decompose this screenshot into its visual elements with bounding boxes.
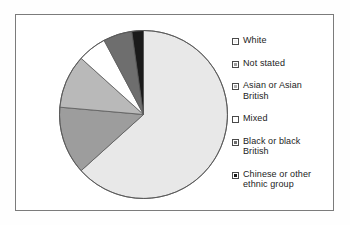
legend-item-black-or-black-british[interactable]: Black or black British xyxy=(232,136,332,157)
chart-frame: White Not stated Asian or Asian British … xyxy=(15,14,334,211)
legend-swatch-icon xyxy=(232,38,239,45)
legend-label: White xyxy=(243,35,267,46)
legend-swatch-fill xyxy=(233,140,238,145)
legend-swatch-icon xyxy=(232,116,239,123)
pie-svg xyxy=(59,30,228,199)
legend-label: Not stated xyxy=(243,58,285,69)
legend-label: Black or black British xyxy=(243,136,300,157)
legend-item-white[interactable]: White xyxy=(232,35,332,46)
legend-swatch-fill xyxy=(233,62,238,67)
legend-item-asian-or-asian-british[interactable]: Asian or Asian British xyxy=(232,80,332,101)
pie-chart xyxy=(59,30,228,199)
legend-swatch-icon xyxy=(232,139,239,146)
pie-slice-group xyxy=(60,31,228,199)
legend-swatch-icon xyxy=(232,83,239,90)
chart-area: White Not stated Asian or Asian British … xyxy=(16,15,335,212)
legend-swatch-icon xyxy=(232,172,239,179)
legend-swatch-fill xyxy=(233,117,238,122)
legend-swatch-icon xyxy=(232,61,239,68)
legend-swatch-fill xyxy=(233,39,238,44)
chart-screenshot: White Not stated Asian or Asian British … xyxy=(0,0,350,225)
legend-swatch-fill xyxy=(233,173,238,178)
legend-item-not-stated[interactable]: Not stated xyxy=(232,58,332,69)
legend-item-mixed[interactable]: Mixed xyxy=(232,113,332,124)
legend-swatch-fill xyxy=(233,84,238,89)
legend-item-chinese-or-other-ethnic-group[interactable]: Chinese or other ethnic group xyxy=(232,169,332,190)
legend-label: Mixed xyxy=(243,113,268,124)
legend-label: Asian or Asian British xyxy=(243,80,302,101)
legend-label: Chinese or other ethnic group xyxy=(243,169,311,190)
chart-legend: White Not stated Asian or Asian British … xyxy=(232,35,332,202)
